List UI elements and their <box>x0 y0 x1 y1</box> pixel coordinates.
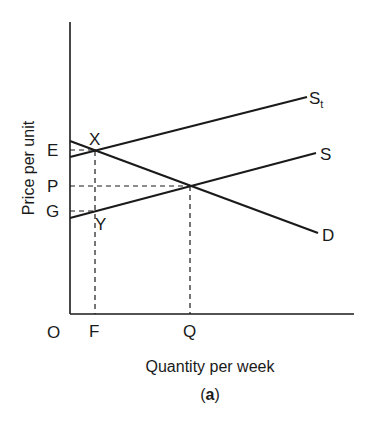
y-axis-title: Price per unit <box>20 120 37 215</box>
y-tick-g: G <box>46 202 59 221</box>
point-x-label: X <box>89 130 100 149</box>
supply-label: S <box>320 145 331 164</box>
guide-lines <box>70 150 190 314</box>
y-tick-p: P <box>47 177 58 196</box>
supply-tax-curve <box>70 97 307 157</box>
figure-caption: (a) <box>200 386 220 403</box>
supply-demand-diagram: St S D X Y E P G O F Q Price per unit Qu… <box>0 0 372 428</box>
y-tick-e: E <box>47 141 58 160</box>
point-y-label: Y <box>95 215 106 234</box>
x-tick-q: Q <box>183 322 196 341</box>
x-tick-f: F <box>89 322 99 341</box>
x-axis-title: Quantity per week <box>146 358 276 375</box>
supply-tax-label: St <box>309 89 323 110</box>
demand-label: D <box>322 226 334 245</box>
demand-curve <box>70 141 318 233</box>
origin-label: O <box>47 323 60 342</box>
